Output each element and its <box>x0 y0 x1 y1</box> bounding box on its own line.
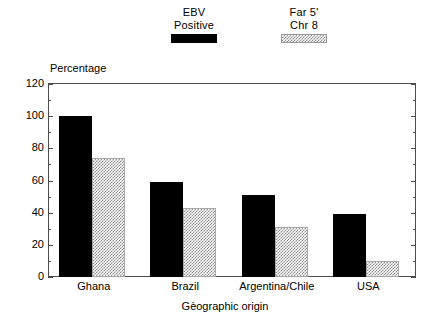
y-axis-tick-label: 40 <box>4 206 44 218</box>
bar-far5-chr8 <box>366 261 399 277</box>
bar-far5-chr8 <box>183 208 216 277</box>
y-axis-tick-label: 120 <box>4 77 44 89</box>
x-axis-category-labels: GhanaBrazilArgentina/ChileUSA <box>48 280 416 298</box>
bar-series-container <box>49 84 415 277</box>
x-axis-title-text: Gèographic origin <box>168 300 269 312</box>
x-axis-category-label: USA <box>357 280 380 292</box>
bar-chart-figure: EBV Positive Far 5' Chr 8 Percentage 020… <box>0 0 436 327</box>
x-axis-category-label: Argentina/Chile <box>239 280 314 292</box>
bar-ebv-positive <box>150 182 183 277</box>
bar-ebv-positive <box>333 214 366 277</box>
y-axis-major-tick <box>411 277 416 278</box>
y-axis-title: Percentage <box>50 62 106 74</box>
y-axis-tick-label: 60 <box>4 174 44 186</box>
bar-far5-chr8 <box>92 158 125 277</box>
y-axis-tick-label: 20 <box>4 238 44 250</box>
y-axis-major-tick <box>48 277 53 278</box>
y-axis-tick-label: 80 <box>4 141 44 153</box>
bar-ebv-positive <box>59 116 92 277</box>
y-axis-tick-labels: 020406080100120 <box>0 83 44 277</box>
x-axis-category-label: Brazil <box>171 280 199 292</box>
bar-far5-chr8 <box>275 227 308 277</box>
plot-area: Percentage 020406080100120 GhanaBrazilAr… <box>0 0 436 327</box>
x-axis-title: Gèographic origin <box>0 300 436 312</box>
y-axis-tick-label: 100 <box>4 109 44 121</box>
x-axis-category-label: Ghana <box>77 280 110 292</box>
bar-ebv-positive <box>242 195 275 277</box>
y-axis-tick-label: 0 <box>4 270 44 282</box>
